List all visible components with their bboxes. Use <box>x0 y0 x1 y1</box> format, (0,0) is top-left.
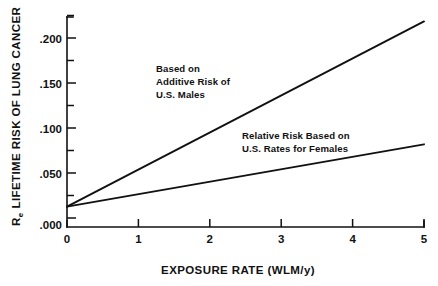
x-tick-label-5: 5 <box>421 233 428 245</box>
x-axis-major-ticks <box>67 219 424 227</box>
chart-figure: .200 .150 .100 .050 .000 0 1 2 3 4 5 EXP… <box>0 0 438 286</box>
y-tick-label-0.000: .000 <box>40 219 62 231</box>
x-axis-title: EXPOSURE RATE (WLM/y) <box>161 264 315 276</box>
annotation-additive-males-line-1: Based on <box>156 63 200 74</box>
x-tick-labels: 0 1 2 3 4 5 <box>64 233 428 245</box>
x-tick-label-1: 1 <box>135 233 142 245</box>
annotation-additive-males: Based on Additive Risk of U.S. Males <box>156 63 231 100</box>
series-line-additive-males <box>67 21 424 206</box>
annotation-relative-females-line-2: U.S. Rates for Females <box>242 143 348 154</box>
y-tick-label-0.200: .200 <box>40 33 62 45</box>
x-tick-label-0: 0 <box>64 233 70 245</box>
svg-text:ReLIFETIME RISK OF LUNG CANCER: ReLIFETIME RISK OF LUNG CANCER <box>10 7 25 226</box>
y-axis-minor-ticks <box>67 16 74 196</box>
y-tick-labels: .200 .150 .100 .050 .000 <box>40 33 62 231</box>
annotation-relative-females: Relative Risk Based on U.S. Rates for Fe… <box>242 130 350 154</box>
y-tick-label-0.150: .150 <box>40 78 62 90</box>
x-tick-label-4: 4 <box>349 233 356 245</box>
y-tick-label-0.050: .050 <box>40 168 62 180</box>
annotation-additive-males-line-2: Additive Risk of <box>156 76 231 87</box>
chart-plot-area: .200 .150 .100 .050 .000 0 1 2 3 4 5 EXP… <box>0 0 438 286</box>
y-axis-title: ReLIFETIME RISK OF LUNG CANCER <box>10 7 25 226</box>
y-axis-title-text: LIFETIME RISK OF LUNG CANCER <box>10 7 22 209</box>
y-axis-title-symbol: R <box>10 217 22 226</box>
series-group <box>67 21 424 206</box>
annotation-additive-males-line-3: U.S. Males <box>156 89 205 100</box>
annotation-relative-females-line-1: Relative Risk Based on <box>242 130 350 141</box>
y-axis-title-subscript: e <box>16 212 25 217</box>
y-tick-label-0.100: .100 <box>40 123 62 135</box>
x-tick-label-3: 3 <box>278 233 284 245</box>
y-axis-major-ticks <box>67 38 76 218</box>
x-tick-label-2: 2 <box>207 233 213 245</box>
